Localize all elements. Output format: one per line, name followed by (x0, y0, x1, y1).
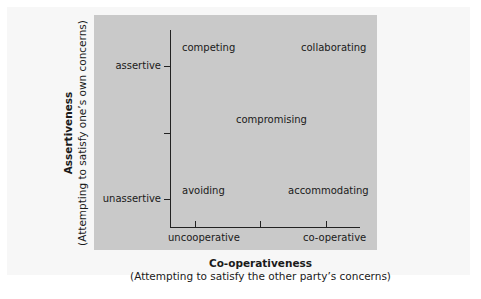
x-tick-cooperative (326, 221, 327, 227)
x-axis-title: Co-operativeness (20, 257, 481, 270)
y-tick-label-assertive: assertive (115, 60, 161, 72)
label-compromising: compromising (236, 114, 307, 126)
y-axis-line (170, 30, 171, 227)
x-axis-line (170, 227, 360, 228)
x-tick-uncooperative (195, 221, 196, 227)
y-tick-middle (164, 133, 170, 134)
label-competing: competing (182, 42, 235, 54)
y-axis-title: Assertiveness (62, 92, 75, 175)
label-collaborating: collaborating (301, 42, 366, 54)
x-tick-label-uncooperative: uncooperative (168, 232, 240, 244)
y-tick-label-unassertive: unassertive (103, 193, 161, 205)
label-avoiding: avoiding (182, 185, 225, 197)
x-axis-subtitle: (Attempting to satisfy the other party’s… (20, 270, 481, 283)
y-tick-unassertive (164, 199, 170, 200)
x-tick-label-cooperative: co-operative (303, 232, 366, 244)
y-axis-subtitle: (Attempting to satisfy one’s own concern… (76, 20, 89, 246)
y-tick-assertive (164, 66, 170, 67)
x-tick-middle (260, 221, 261, 227)
label-accommodating: accommodating (288, 185, 369, 197)
